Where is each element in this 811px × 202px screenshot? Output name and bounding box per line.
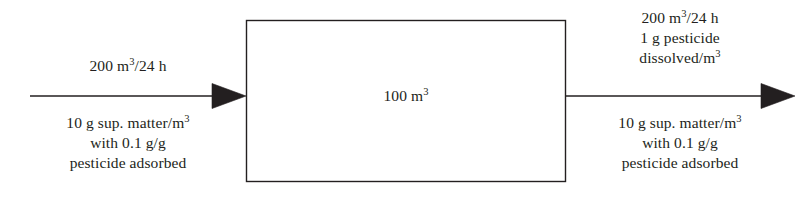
- outlet-dissolved-line-2-text: dissolved/m: [639, 49, 715, 66]
- outlet-solids-line-1-text: 10 g sup. matter/m: [618, 114, 736, 131]
- reactor-volume-unit: m: [411, 87, 423, 104]
- effluent-arrowhead-icon: [761, 84, 795, 109]
- reactor-volume-exponent: 3: [423, 86, 428, 97]
- reactor-volume-value: 100: [383, 87, 407, 104]
- inlet-flow-per: /24 h: [135, 57, 167, 74]
- outlet-solids-line-3: pesticide adsorbed: [570, 153, 790, 173]
- outlet-flow-block: 200 m3/24 h 1 g pesticide dissolved/m3: [580, 8, 780, 68]
- process-flow-diagram: 200 m3/24 h 10 g sup. matter/m3 with 0.1…: [0, 0, 811, 202]
- influent-arrowhead-icon: [212, 84, 246, 109]
- outlet-flow-unit: m: [669, 9, 681, 26]
- outlet-dissolved-line-2-exponent: 3: [715, 48, 720, 59]
- inlet-flow-value: 200: [89, 57, 113, 74]
- inlet-solids-line-2: with 0.1 g/g: [18, 133, 238, 153]
- inlet-flow-unit: m: [117, 57, 129, 74]
- outlet-flow-value: 200: [641, 9, 665, 26]
- inlet-suspended-matter-block: 10 g sup. matter/m3 with 0.1 g/g pestici…: [18, 113, 238, 173]
- outlet-flow-per: /24 h: [687, 9, 719, 26]
- reactor-volume-label: 100 m3: [326, 86, 486, 106]
- outlet-solids-line-2: with 0.1 g/g: [570, 133, 790, 153]
- inlet-solids-line-1-exponent: 3: [184, 113, 189, 124]
- outlet-solids-line-1-exponent: 3: [736, 113, 741, 124]
- outlet-dissolved-line-2: dissolved/m3: [580, 48, 780, 68]
- outlet-flow-line: 200 m3/24 h: [580, 8, 780, 28]
- outlet-suspended-matter-block: 10 g sup. matter/m3 with 0.1 g/g pestici…: [570, 113, 790, 173]
- inlet-flow-label: 200 m3/24 h: [28, 56, 228, 76]
- inlet-solids-line-3: pesticide adsorbed: [18, 153, 238, 173]
- inlet-solids-line-1: 10 g sup. matter/m3: [18, 113, 238, 133]
- outlet-dissolved-line-1: 1 g pesticide: [580, 28, 780, 48]
- outlet-solids-line-1: 10 g sup. matter/m3: [570, 113, 790, 133]
- inlet-solids-line-1-text: 10 g sup. matter/m: [66, 114, 184, 131]
